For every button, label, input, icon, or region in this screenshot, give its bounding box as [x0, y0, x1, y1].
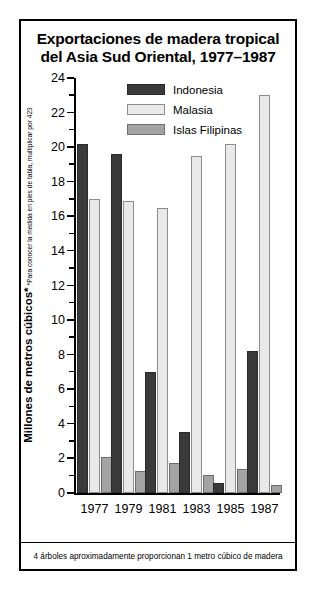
legend-label: Islas Filipinas	[173, 124, 242, 136]
legend-swatch-icon	[127, 124, 165, 135]
bar-islas-filipinas-1985	[237, 469, 248, 493]
y-tick-mark	[67, 215, 74, 217]
legend-item-indonesia: Indonesia	[127, 81, 242, 98]
y-minor-tick-mark	[69, 302, 74, 304]
y-tick-label: 20	[51, 140, 65, 154]
y-tick-mark	[67, 388, 74, 390]
bar-group-1977	[77, 78, 111, 493]
y-tick-label: 16	[51, 209, 65, 223]
y-minor-tick-mark	[69, 198, 74, 200]
y-tick-mark	[67, 181, 74, 183]
bar-islas-filipinas-1977	[101, 457, 112, 493]
legend-swatch-icon	[127, 104, 165, 115]
y-tick-label: 10	[51, 313, 65, 327]
legend-item-islas-filipinas: Islas Filipinas	[127, 121, 242, 138]
y-minor-tick-mark	[69, 94, 74, 96]
bar-indonesia-1979	[111, 154, 122, 493]
y-tick-mark	[67, 112, 74, 114]
y-minor-tick-mark	[69, 267, 74, 269]
x-tick-label-1987: 1987	[251, 502, 279, 516]
bar-indonesia-1985	[213, 483, 224, 493]
bar-indonesia-1977	[77, 144, 88, 493]
y-tick-label: 8	[58, 348, 65, 362]
y-tick-label: 22	[51, 106, 65, 120]
bar-malasia-1983	[191, 156, 202, 493]
x-tick-label-1979: 1979	[115, 502, 143, 516]
bar-malasia-1981	[157, 208, 168, 493]
y-minor-tick-mark	[69, 406, 74, 408]
y-tick-mark	[67, 285, 74, 287]
chart-figure: Exportaciones de madera tropical del Asi…	[19, 19, 297, 571]
x-tick-label-1977: 1977	[81, 502, 109, 516]
y-minor-tick-mark	[69, 129, 74, 131]
y-tick-label: 14	[51, 244, 65, 258]
y-tick-label: 0	[58, 486, 65, 500]
legend-label: Indonesia	[173, 84, 223, 96]
bar-malasia-1979	[123, 201, 134, 493]
y-tick-label: 6	[58, 382, 65, 396]
y-tick-mark	[67, 492, 74, 494]
y-axis-label-footnote: *Para conocer la medida en pies de tabla…	[26, 107, 34, 285]
y-tick-mark	[67, 457, 74, 459]
y-tick-mark	[67, 423, 74, 425]
bar-islas-filipinas-1979	[135, 471, 146, 493]
x-tick-label-1985: 1985	[217, 502, 245, 516]
y-tick-mark	[67, 250, 74, 252]
legend-label: Malasia	[173, 104, 213, 116]
chart-footnote: 4 árboles aproximadamente proporcionan 1…	[21, 552, 295, 561]
bar-malasia-1987	[259, 95, 270, 493]
bar-indonesia-1983	[179, 432, 190, 493]
chart-title-line-2: del Asia Sud Oriental, 1977–1987	[21, 48, 295, 66]
legend-swatch-icon	[127, 84, 165, 95]
legend-item-malasia: Malasia	[127, 101, 242, 118]
bar-indonesia-1981	[145, 372, 156, 493]
y-minor-tick-mark	[69, 233, 74, 235]
y-tick-label: 4	[58, 417, 65, 431]
y-tick-mark	[67, 77, 74, 79]
y-axis-label: Millones de metros cúbicos* *Para conoce…	[17, 125, 39, 425]
chart-title-line-1: Exportaciones de madera tropical	[21, 30, 295, 48]
y-minor-tick-mark	[69, 336, 74, 338]
y-tick-mark	[67, 319, 74, 321]
bar-malasia-1977	[89, 199, 100, 493]
y-tick-label: 2	[58, 451, 65, 465]
y-tick-label: 24	[51, 71, 65, 85]
y-minor-tick-mark	[69, 163, 74, 165]
bar-malasia-1985	[225, 144, 236, 493]
y-minor-tick-mark	[69, 475, 74, 477]
footnote-divider	[21, 542, 295, 544]
x-tick-label-1981: 1981	[149, 502, 177, 516]
y-tick-label: 18	[51, 175, 65, 189]
bar-group-1987	[247, 78, 281, 493]
y-minor-tick-mark	[69, 440, 74, 442]
y-axis-label-text: Millones de metros cúbicos*	[22, 287, 34, 442]
y-tick-mark	[67, 354, 74, 356]
bar-islas-filipinas-1987	[271, 485, 282, 493]
y-tick-mark	[67, 146, 74, 148]
bar-islas-filipinas-1981	[169, 463, 180, 493]
chart-title: Exportaciones de madera tropical del Asi…	[21, 30, 295, 66]
bar-islas-filipinas-1983	[203, 475, 214, 493]
x-tick-label-1983: 1983	[183, 502, 211, 516]
y-minor-tick-mark	[69, 371, 74, 373]
chart-legend: IndonesiaMalasiaIslas Filipinas	[127, 81, 242, 141]
y-tick-label: 12	[51, 279, 65, 293]
bar-indonesia-1987	[247, 351, 258, 493]
x-axis-line	[74, 493, 280, 495]
